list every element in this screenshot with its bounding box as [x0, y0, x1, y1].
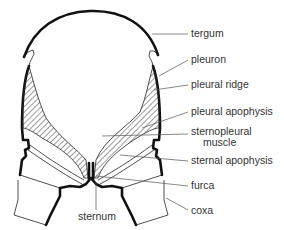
- label-sternal-apophysis: sternal apophysis: [191, 154, 273, 166]
- label-tergum: tergum: [191, 27, 224, 39]
- right-coxa: [122, 188, 136, 225]
- right-pleural-ridge: [94, 66, 159, 178]
- tergum-shape: [24, 11, 158, 57]
- left-pleural-ridge: [23, 66, 88, 178]
- leader-pleural-ridge: [154, 85, 188, 90]
- leader-coxa: [166, 198, 188, 210]
- left-coxa-outline: [14, 175, 60, 225]
- sternum-shape: [60, 178, 122, 188]
- leader-furca: [96, 176, 188, 186]
- thorax-cross-section-diagram: tergum pleuron pleural ridge pleural apo…: [0, 0, 284, 230]
- label-pleuron: pleuron: [191, 53, 226, 65]
- label-pleural-ridge: pleural ridge: [191, 78, 249, 90]
- label-coxa: coxa: [191, 204, 213, 216]
- label-furca: furca: [191, 179, 215, 191]
- right-pleural-hook: [149, 51, 158, 66]
- label-muscle: muscle: [203, 136, 236, 148]
- label-sternum: sternum: [78, 210, 116, 222]
- right-coxa-outline: [122, 175, 168, 225]
- label-pleural-apophysis: pleural apophysis: [191, 105, 273, 117]
- left-coxa: [46, 188, 60, 225]
- leader-pleuron: [159, 60, 188, 76]
